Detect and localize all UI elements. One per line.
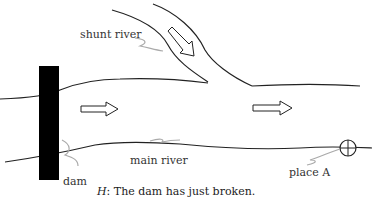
place-a-marker-icon xyxy=(340,140,356,156)
shunt-river-left-bank xyxy=(112,10,208,82)
dam-label: dam xyxy=(63,175,87,188)
figure-caption: H: The dam has just broken. xyxy=(97,185,255,198)
dam-pointer xyxy=(62,140,78,166)
flow-arrow-upstream xyxy=(81,102,118,116)
main-river-upper-bank-right xyxy=(252,85,360,87)
main-river-upper-bank-left xyxy=(0,79,208,99)
place-a-pointer xyxy=(307,149,340,165)
main-river-label: main river xyxy=(130,154,188,167)
main-river-pointer xyxy=(150,139,180,142)
caption-variable: H xyxy=(97,185,107,198)
shunt-river-label: shunt river xyxy=(80,28,142,41)
place-a-label: place A xyxy=(289,166,330,179)
dam xyxy=(39,66,59,180)
flow-arrow-downstream xyxy=(253,101,292,115)
caption-text: : The dam has just broken. xyxy=(107,185,256,198)
main-river-lower-bank xyxy=(5,142,372,162)
